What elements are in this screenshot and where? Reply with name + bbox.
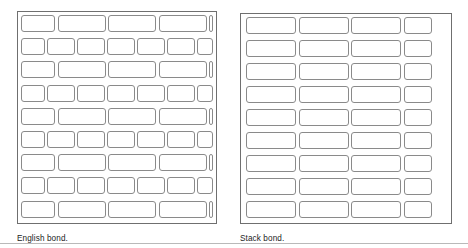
brick-stretcher [58,108,106,125]
brick-stretcher [58,15,106,32]
brick-stretcher [351,40,401,57]
stack-bond-panel [240,13,452,224]
brick-partial [404,155,432,172]
brick-stretcher [21,201,55,218]
brick-stretcher [108,61,156,78]
brick-stretcher [108,201,156,218]
brick-stretcher [209,15,213,32]
brick-header [47,38,75,55]
brick-partial [404,17,432,34]
brick-header [197,177,213,194]
brick-header [21,38,45,55]
brick-stretcher [351,17,401,34]
brick-stretcher [209,201,213,218]
brick-header [21,85,45,102]
brick-stretcher [209,154,213,171]
brick-header [107,131,135,148]
brick-stretcher [299,155,349,172]
brick-header [77,131,105,148]
brick-header [167,85,195,102]
brick-stretcher [108,108,156,125]
brick-header [167,38,195,55]
brick-header [47,85,75,102]
brick-header [77,177,105,194]
brick-stretcher [351,178,401,195]
brick-stretcher [246,109,296,126]
brick-stretcher [209,108,213,125]
stack-bond-caption: Stack bond. [240,234,284,243]
brick-stretcher [159,15,207,32]
brick-header [137,85,165,102]
brick-stretcher [299,40,349,57]
brick-stretcher [108,15,156,32]
brick-header [197,85,213,102]
brick-stretcher [351,109,401,126]
brick-stretcher [246,17,296,34]
brick-stretcher [299,17,349,34]
brick-stretcher [159,201,207,218]
brick-stretcher [58,61,106,78]
brick-stretcher [159,108,207,125]
brick-stretcher [246,86,296,103]
brick-stretcher [58,201,106,218]
brick-stretcher [299,86,349,103]
brick-stretcher [246,155,296,172]
brick-stretcher [299,63,349,80]
brick-stretcher [351,86,401,103]
brick-stretcher [299,201,349,218]
brick-partial [404,86,432,103]
brick-header [21,177,45,194]
brick-header [197,38,213,55]
brick-header [107,38,135,55]
brick-partial [404,178,432,195]
brick-partial [404,40,432,57]
brick-stretcher [299,109,349,126]
brick-stretcher [246,63,296,80]
brick-stretcher [351,132,401,149]
brick-stretcher [246,132,296,149]
brick-bond-figure: English bond. Stack bond. [0,0,468,248]
brick-stretcher [159,61,207,78]
brick-header [77,38,105,55]
brick-stretcher [21,15,55,32]
brick-header [137,38,165,55]
brick-stretcher [21,154,55,171]
brick-stretcher [58,154,106,171]
brick-stretcher [299,132,349,149]
brick-header [21,131,45,148]
brick-stretcher [351,63,401,80]
brick-header [47,177,75,194]
brick-stretcher [209,61,213,78]
brick-partial [404,63,432,80]
brick-stretcher [159,154,207,171]
brick-partial [404,132,432,149]
brick-header [47,131,75,148]
stack-bond-brick-grid [244,17,448,220]
brick-partial [404,201,432,218]
brick-header [107,85,135,102]
brick-header [167,177,195,194]
brick-stretcher [246,178,296,195]
brick-stretcher [351,201,401,218]
brick-stretcher [21,61,55,78]
brick-stretcher [246,201,296,218]
brick-header [167,131,195,148]
brick-header [137,131,165,148]
brick-header [137,177,165,194]
brick-stretcher [108,154,156,171]
figure-baseline-rule [0,243,468,244]
brick-stretcher [246,40,296,57]
english-bond-brick-grid [21,15,213,220]
brick-partial [404,109,432,126]
english-bond-caption: English bond. [17,234,68,243]
brick-header [77,85,105,102]
brick-header [197,131,213,148]
brick-stretcher [299,178,349,195]
brick-stretcher [351,155,401,172]
brick-header [107,177,135,194]
english-bond-panel [17,11,217,224]
brick-stretcher [21,108,55,125]
